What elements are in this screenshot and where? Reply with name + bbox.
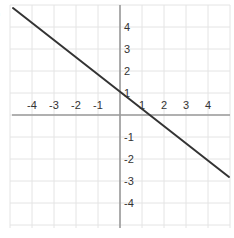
y-tick-label: 4 <box>124 21 130 33</box>
x-tick-label: -2 <box>71 99 81 111</box>
x-tick-label: -1 <box>93 99 103 111</box>
coordinate-plane: -4-3-2-112344321-1-2-3-4 <box>0 0 234 238</box>
x-tick-label: 3 <box>183 99 189 111</box>
x-tick-label: -3 <box>49 99 59 111</box>
x-tick-label: -4 <box>27 99 37 111</box>
y-tick-label: -1 <box>124 131 134 143</box>
x-tick-label: 4 <box>205 99 211 111</box>
x-tick-label: 2 <box>161 99 167 111</box>
y-tick-label: -4 <box>124 197 134 209</box>
axes <box>12 5 230 228</box>
y-tick-label: -3 <box>124 175 134 187</box>
y-tick-label: 3 <box>124 43 130 55</box>
y-tick-label: 2 <box>124 65 130 77</box>
y-tick-label: -2 <box>124 153 134 165</box>
